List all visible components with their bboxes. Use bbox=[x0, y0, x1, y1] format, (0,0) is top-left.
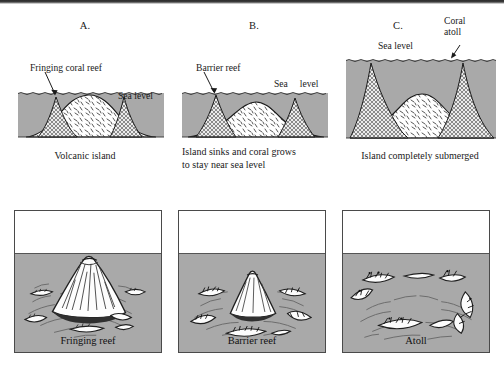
panel-letter-c: C. bbox=[338, 20, 458, 31]
section-drawing-c bbox=[344, 54, 500, 146]
fringing-reef-artwork bbox=[15, 211, 161, 352]
label-fringing-coral-reef: Fringing coral reef bbox=[30, 62, 102, 73]
caption-island-submerged: Island completely submerged bbox=[334, 150, 504, 163]
label-sea-level-a: Sea level bbox=[118, 90, 153, 101]
label-coral-atoll: Coral atoll bbox=[444, 16, 465, 37]
caption-atoll: Atoll bbox=[343, 335, 489, 346]
caption-barrier-reef: Barrier reef bbox=[179, 335, 325, 346]
cross-section-panel-c: C. Coral atoll Sea level bbox=[338, 0, 504, 190]
caption-island-sinks: Island sinks and coral grows to stay nea… bbox=[182, 146, 340, 171]
barrier-reef-artwork bbox=[179, 211, 325, 352]
illustration-atoll: Atoll bbox=[342, 210, 490, 353]
label-sea-level-b: Sea level bbox=[274, 78, 319, 89]
atoll-artwork bbox=[343, 211, 489, 352]
panel-letter-a: A. bbox=[0, 20, 170, 31]
cross-section-panel-a: A. Fringing coral reef bbox=[0, 0, 170, 190]
caption-volcanic-island: Volcanic island bbox=[0, 150, 170, 163]
illustration-fringing-reef: Fringing reef bbox=[14, 210, 162, 353]
label-barrier-reef: Barrier reef bbox=[196, 62, 240, 73]
section-drawing-b bbox=[170, 84, 338, 146]
label-sea-level-c: Sea level bbox=[378, 40, 413, 51]
caption-fringing-reef: Fringing reef bbox=[15, 335, 161, 346]
illustration-barrier-reef: Barrier reef bbox=[178, 210, 326, 353]
figure-coral-reef-formation: A. Fringing coral reef bbox=[0, 0, 504, 372]
cross-section-panel-b: B. Barrier reef bbox=[168, 0, 340, 190]
panel-letter-b: B. bbox=[168, 20, 340, 31]
